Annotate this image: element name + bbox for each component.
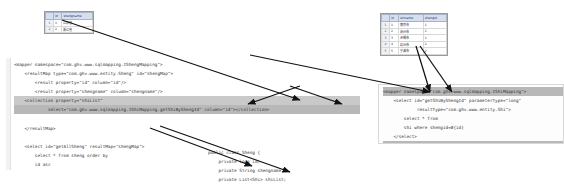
sheng-data-grid[interactable]: id shengname 1 1 江苏省 2 2 浙江省 bbox=[44, 11, 94, 34]
col-shengid[interactable]: shengid bbox=[423, 15, 446, 22]
cell-rownum: 2 bbox=[46, 26, 54, 33]
code-line[interactable]: private long id; bbox=[208, 157, 358, 166]
code-line[interactable]: <select id="getShiByShengId" parameterTy… bbox=[383, 96, 563, 105]
code-line[interactable]: resultType="com.ghv.www.entity.Shi"> bbox=[383, 105, 563, 114]
col-rownum[interactable] bbox=[382, 15, 390, 22]
code-line[interactable]: <result property="id" column="id"/> bbox=[14, 78, 360, 87]
code-line[interactable]: shi where shengid=#{id} bbox=[383, 123, 563, 132]
code-line[interactable] bbox=[14, 133, 224, 142]
code-line[interactable]: <mapper namespace="com.ghv.www.sqlmappin… bbox=[14, 60, 360, 69]
code-line[interactable]: <select id="getAllSheng" resultMap="shen… bbox=[14, 142, 224, 151]
col-shengname[interactable]: shengname bbox=[62, 13, 93, 20]
editor-gutter bbox=[6, 122, 11, 170]
sheng-java-class-editor[interactable]: public class Sheng { private long id; pr… bbox=[206, 147, 358, 188]
col-rownum[interactable] bbox=[46, 13, 54, 20]
code-line[interactable]: </select> bbox=[14, 169, 224, 170]
shi-data-grid[interactable]: id shiname shengid 1 1 南京市 1 2 2 苏州市 1 bbox=[380, 13, 448, 56]
code-line[interactable]: <result property="shengname" column="she… bbox=[14, 87, 360, 96]
col-shiname[interactable]: shiname bbox=[398, 15, 423, 22]
code-line[interactable]: select * from bbox=[383, 114, 563, 123]
table-header-row: id shiname shengid bbox=[382, 15, 447, 22]
code-line[interactable]: private List<Shi> shiList; bbox=[208, 175, 358, 184]
code-line-collection[interactable]: <collection property="shiList" bbox=[14, 96, 360, 105]
cell-shengid[interactable]: 2 bbox=[423, 48, 446, 55]
code-line[interactable]: id asc bbox=[14, 160, 224, 169]
col-id[interactable]: id bbox=[390, 15, 399, 22]
table-header-row: id shengname bbox=[46, 13, 93, 20]
table-row[interactable]: 5 5 宁波市 2 bbox=[382, 48, 447, 55]
shi-mapper-xml-editor[interactable]: <mapper namespace="com.ghv.www.sqlmappin… bbox=[378, 84, 564, 144]
cell-rownum: 5 bbox=[382, 48, 390, 55]
table-row[interactable]: 2 2 浙江省 bbox=[46, 26, 93, 33]
code-line[interactable]: </select> bbox=[383, 132, 563, 141]
sheng-grid-table[interactable]: id shengname 1 1 江苏省 2 2 浙江省 bbox=[45, 12, 93, 33]
cell-id[interactable]: 2 bbox=[54, 26, 62, 33]
col-id[interactable]: id bbox=[54, 13, 62, 20]
code-line[interactable]: public class Sheng { bbox=[208, 148, 358, 157]
code-line-mapper-open[interactable]: <mapper namespace="com.ghv.www.sqlmappin… bbox=[383, 87, 563, 96]
code-line-mapper-close[interactable]: </mapper> bbox=[383, 141, 563, 144]
cell-shengname[interactable]: 浙江省 bbox=[62, 26, 93, 33]
code-line-collection-select[interactable]: select="com.ghv.www.sqlmapping.IShiMappi… bbox=[14, 105, 360, 114]
sheng-mapper-xml-editor[interactable]: <mapper namespace="com.ghv.www.sqlmappin… bbox=[6, 58, 360, 122]
code-line[interactable]: select * from sheng order by bbox=[14, 151, 224, 160]
code-line[interactable]: private String shengname; bbox=[208, 166, 358, 175]
cell-id[interactable]: 5 bbox=[390, 48, 399, 55]
code-line[interactable]: <resultMap type="com.ghv.www.entity.Shen… bbox=[14, 69, 360, 78]
code-line[interactable]: </resultMap> bbox=[14, 124, 224, 133]
cell-shiname[interactable]: 宁波市 bbox=[398, 48, 423, 55]
editor-gutter bbox=[6, 58, 11, 122]
shi-grid-table[interactable]: id shiname shengid 1 1 南京市 1 2 2 苏州市 1 bbox=[381, 14, 447, 55]
sheng-select-xml-editor[interactable]: </resultMap> <select id="getAllSheng" re… bbox=[6, 122, 224, 170]
